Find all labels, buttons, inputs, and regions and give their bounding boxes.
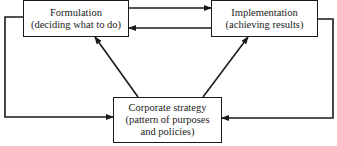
implementation-node: Implementation (achieving results) — [211, 0, 318, 37]
implementation-title: Implementation — [231, 7, 297, 19]
corporate-title: Corporate strategy — [129, 102, 207, 114]
corporate-line3: and policies) — [141, 126, 195, 138]
edge-corporate-to-formulation — [95, 37, 138, 97]
corporate-line2: (pattern of purposes — [126, 114, 210, 126]
formulation-title: Formulation — [50, 7, 102, 19]
corporate-strategy-node: Corporate strategy (pattern of purposes … — [113, 97, 222, 143]
edge-corporate-to-implementation — [203, 37, 248, 97]
implementation-subtitle: (achieving results) — [226, 19, 304, 31]
formulation-node: Formulation (deciding what to do) — [23, 0, 129, 37]
formulation-subtitle: (deciding what to do) — [31, 19, 121, 31]
